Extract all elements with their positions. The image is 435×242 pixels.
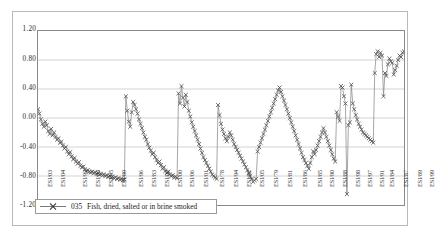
x-axis: ESI/03ESI/04ESI/92ESI/93ESI/95ESI/80ESI/… (37, 126, 405, 172)
x-axis-tick-label: ESI/02 (164, 170, 170, 187)
x-axis-tick-label: ESI/92 (82, 170, 88, 187)
legend-series-label: Fish, dried, salted or in brine smoked (87, 202, 197, 211)
x-axis-tick-label: ESI/99 (429, 170, 435, 187)
chart-legend: 035 Fish, dried, salted or in brine smok… (35, 199, 217, 214)
x-axis-tick-label: ESI/87 (403, 170, 409, 187)
x-marker-line-icon (40, 202, 66, 211)
y-axis-tick-label: 1.20 (2, 26, 36, 33)
x-axis-tick-label: ESI/95 (108, 170, 114, 187)
x-axis-tick-label: ESI/93 (95, 170, 101, 187)
y-axis-tick-label: 0.00 (2, 114, 36, 121)
x-axis-tick-label: ESI/06 (189, 170, 195, 187)
y-axis-tick-label: -0.80 (2, 173, 36, 180)
x-axis-tick-label: ESI/91 (379, 170, 385, 187)
y-axis-tick-label: 0.40 (2, 85, 36, 92)
x-axis-tick-label: ESI/85 (317, 170, 323, 187)
legend-series-code: 035 (71, 202, 82, 211)
x-axis-tick-label: ESI/78 (219, 170, 225, 187)
x-axis-tick-label: ESI/86 (302, 170, 308, 187)
x-axis-tick-label: ESI/89 (417, 170, 423, 187)
x-axis-tick-label: ESI/05 (259, 170, 265, 187)
x-axis-tick-label: ESI/90 (329, 170, 335, 187)
x-axis-tick-label: ESI/88 (342, 170, 348, 187)
x-axis-tick-label: ESI/82 (246, 170, 252, 187)
x-axis-tick-label: ESI/97 (367, 170, 373, 187)
x-axis-tick-label: ESI/94 (233, 170, 239, 187)
x-axis-tick-label: ESI/84 (389, 170, 395, 187)
y-axis-tick-label: -0.40 (2, 144, 36, 151)
x-axis-tick-label: ESI/03 (47, 170, 53, 187)
y-axis-tick-label: 0.80 (2, 56, 36, 63)
x-axis-tick-label: ESI/80 (121, 170, 127, 187)
x-axis-tick-label: ESI/79 (273, 170, 279, 187)
x-axis-tick-label: ESI/83 (151, 170, 157, 187)
y-axis-tick-label: -1.20 (2, 202, 36, 209)
x-axis-tick-label: ESI/96 (138, 170, 144, 187)
y-axis: 1.200.800.400.00-0.40-0.80-1.20 (0, 0, 36, 242)
x-axis-tick-label: ESI/04 (60, 170, 66, 187)
x-axis-tick-label: ESI/00 (177, 170, 183, 187)
x-axis-tick-label: ESI/01 (203, 170, 209, 187)
x-axis-tick-label: ESI/81 (287, 170, 293, 187)
x-axis-tick-label: ESI/98 (355, 170, 361, 187)
